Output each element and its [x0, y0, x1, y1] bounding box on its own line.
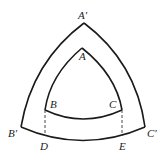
label-a-prime: A′	[77, 9, 88, 21]
label-e: E	[118, 140, 126, 152]
label-b-prime: B′	[8, 127, 18, 139]
label-c: C	[109, 98, 117, 110]
label-d: D	[39, 140, 48, 152]
label-b: B	[50, 98, 57, 110]
spherical-triangles-diagram: A′ A B C B′ C′ D E	[0, 0, 165, 154]
outer-edge-b-prime-c-prime	[21, 127, 145, 141]
outer-triangle	[21, 23, 145, 141]
outer-edge-a-prime-b-prime	[21, 23, 84, 127]
label-c-prime: C′	[147, 127, 157, 139]
outer-edge-a-prime-c-prime	[84, 23, 145, 127]
inner-edge-b-c	[45, 110, 122, 119]
label-a: A	[78, 50, 86, 62]
